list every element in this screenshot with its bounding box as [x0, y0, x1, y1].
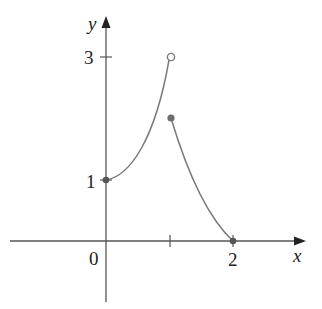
open-point-1-3	[167, 53, 174, 60]
closed-point-1-2	[167, 114, 174, 121]
closed-point-0-1	[103, 177, 110, 184]
y-axis-label: y	[86, 13, 97, 34]
graph-canvas: y 3 1 0 2 x	[0, 0, 322, 309]
curve-piece-1	[106, 60, 169, 180]
x-tick-label-2: 2	[228, 249, 238, 270]
y-tick-label-3: 3	[84, 47, 94, 68]
origin-label: 0	[89, 248, 99, 269]
x-axis-label: x	[292, 245, 302, 266]
y-tick-label-1: 1	[86, 171, 96, 192]
y-axis-arrow-icon	[102, 16, 111, 28]
closed-point-2-0	[230, 238, 237, 245]
curve-piece-2	[171, 118, 233, 241]
